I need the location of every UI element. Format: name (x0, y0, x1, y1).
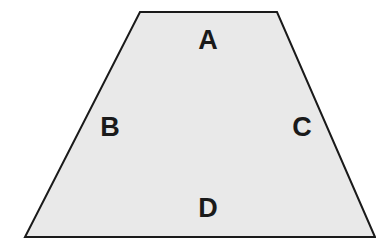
trapezoid-figure (0, 0, 376, 245)
side-label-c: C (292, 114, 312, 141)
side-label-a: A (198, 27, 218, 54)
side-label-d: D (198, 195, 218, 222)
diagram-canvas: A B C D (0, 0, 376, 245)
side-label-b: B (100, 114, 120, 141)
